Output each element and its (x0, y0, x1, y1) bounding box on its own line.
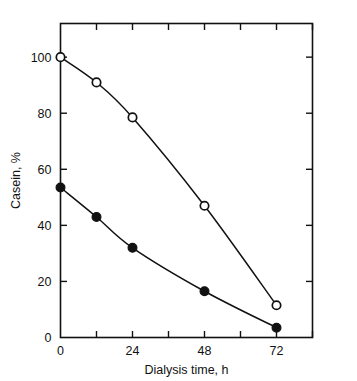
chart-plot-area: 0244872020406080100Dialysis time, hCasei… (0, 0, 357, 381)
chart-figure: 0244872020406080100Dialysis time, hCasei… (0, 0, 357, 381)
x-tick-label: 0 (57, 344, 64, 358)
series-line-open-circle-series (61, 57, 277, 305)
data-point-open-circle-series (128, 113, 136, 121)
data-point-open-circle-series (56, 53, 64, 61)
y-axis-title: Casein, % (9, 152, 23, 209)
x-axis-title: Dialysis time, h (144, 363, 228, 377)
y-tick-label: 40 (38, 219, 52, 233)
data-point-filled-circle-series (272, 323, 281, 332)
data-point-filled-circle-series (200, 287, 209, 296)
series-line-filled-circle-series (61, 188, 277, 328)
y-tick-label: 60 (38, 163, 52, 177)
y-tick-label: 100 (31, 51, 52, 65)
data-point-open-circle-series (92, 78, 100, 86)
data-point-filled-circle-series (128, 243, 137, 252)
y-tick-label: 0 (45, 331, 52, 345)
data-point-open-circle-series (272, 301, 280, 309)
y-tick-label: 20 (38, 275, 52, 289)
data-point-filled-circle-series (92, 213, 101, 222)
axis-frame (61, 24, 313, 338)
x-tick-label: 48 (198, 344, 212, 358)
y-tick-label: 80 (38, 107, 52, 121)
x-tick-label: 24 (126, 344, 140, 358)
data-point-filled-circle-series (56, 183, 65, 192)
data-point-open-circle-series (200, 202, 208, 210)
x-tick-label: 72 (270, 344, 284, 358)
